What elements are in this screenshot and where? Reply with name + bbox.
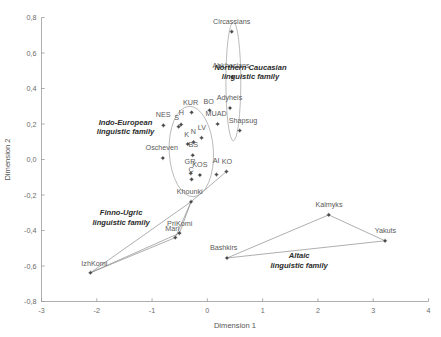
family-annotation-line1: Indo-European	[99, 118, 153, 127]
data-point	[228, 106, 232, 110]
x-tick-label: 3	[371, 306, 375, 315]
family-annotation-line2: linguistic family	[92, 218, 150, 227]
y-tick-label: 0,2	[27, 120, 37, 129]
data-point	[238, 128, 242, 132]
y-tick-label: 0,4	[27, 84, 37, 93]
data-point	[383, 239, 387, 243]
data-point	[230, 30, 234, 34]
point-label: NES	[156, 110, 171, 119]
point-label: LV	[198, 123, 206, 132]
family-annotation-finno-ugric: Finno-Ugriclinguistic family	[92, 208, 150, 227]
plot-canvas: 0,80,60,40,20,0-0,2-0,4-0,6-0,8-3-2-1012…	[0, 0, 441, 337]
point-label: IzhKomi	[81, 259, 107, 268]
x-tick-label: 2	[316, 306, 320, 315]
x-tick-label: -2	[94, 306, 100, 315]
data-point	[225, 256, 229, 260]
data-point	[173, 236, 177, 240]
point-label: Adyheis	[217, 93, 243, 102]
point-label: KOS	[192, 160, 207, 169]
point-label: BO	[204, 97, 215, 106]
point-label: BS	[188, 140, 198, 149]
data-point	[214, 172, 218, 176]
data-point	[88, 271, 92, 275]
data-point	[190, 177, 194, 181]
data-point	[327, 213, 331, 217]
x-tick-label: 1	[261, 306, 265, 315]
point-label: KUR	[183, 98, 198, 107]
point-label: Kalmyks	[315, 200, 343, 209]
family-annotation-northern-caucasian: Northern Caucasianlinguistic family	[214, 63, 287, 82]
x-tick-label: 4	[427, 306, 431, 315]
point-label: Oscheven	[146, 143, 178, 152]
family-annotation-indo-european: Indo-Europeanlinguistic family	[97, 118, 155, 137]
point-label: Shapsug	[229, 116, 257, 125]
point-label: Bashkirs	[210, 243, 238, 252]
y-tick-label: -0,4	[24, 226, 36, 235]
y-axis-title: Dimension 2	[3, 138, 12, 180]
data-point	[198, 173, 202, 177]
family-annotations-group: Northern Caucasianlinguistic familyIndo-…	[92, 63, 328, 270]
point-labels-group: CircassiansAbkhasiansAdyheisShapsugKURBO…	[81, 17, 396, 268]
family-annotation-line2: linguistic family	[222, 72, 280, 81]
x-tick-label: -1	[149, 306, 155, 315]
x-tick-label: 0	[205, 306, 209, 315]
point-label: KO	[222, 157, 233, 166]
family-annotation-line1: Altaic	[288, 251, 310, 260]
x-axis-title: Dimension 1	[214, 321, 256, 330]
point-label: MUAD	[206, 109, 227, 118]
point-label: Circassians	[213, 17, 251, 26]
point-label: H	[179, 108, 184, 117]
data-point	[215, 122, 219, 126]
data-point	[161, 123, 165, 127]
family-annotation-altaic: Altaiclinguistic family	[270, 251, 328, 270]
family-annotation-line2: linguistic family	[270, 261, 328, 270]
family-annotation-line1: Finno-Ugric	[100, 208, 143, 217]
point-label: Mari	[165, 224, 179, 233]
y-tick-label: -0,6	[24, 262, 36, 271]
axis-titles-group: Dimension 1Dimension 2	[3, 138, 256, 329]
y-tick-label: 0,6	[27, 49, 37, 58]
point-label: Khounki	[177, 187, 203, 196]
y-tick-label: 0,0	[27, 155, 37, 164]
y-tick-label: -0,8	[24, 297, 36, 306]
scatter-plot-figure: 0,80,60,40,20,0-0,2-0,4-0,6-0,8-3-2-1012…	[0, 0, 441, 337]
point-label: N	[191, 127, 196, 136]
x-tick-label: -3	[38, 306, 44, 315]
family-annotation-line1: Northern Caucasian	[214, 63, 287, 72]
point-label: K	[184, 130, 189, 139]
y-tick-label: 0,8	[27, 13, 37, 22]
y-tick-label: -0,2	[24, 191, 36, 200]
point-label: Yakuts	[375, 226, 397, 235]
data-point	[199, 136, 203, 140]
point-label: AI	[213, 156, 220, 165]
data-point	[190, 110, 194, 114]
data-point	[161, 156, 165, 160]
family-annotation-line2: linguistic family	[97, 127, 155, 136]
